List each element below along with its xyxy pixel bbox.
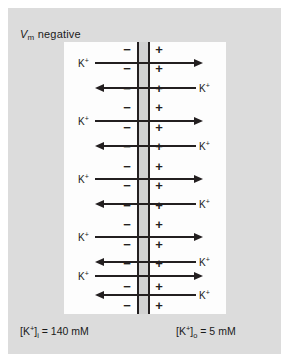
membrane-charge-minus: − <box>123 160 131 173</box>
conc-out-value: = 5 mM <box>197 325 235 337</box>
k-efflux-arrow-2: K+ <box>0 120 289 122</box>
membrane-charge-minus: − <box>123 121 131 134</box>
figure-title: Vm negative <box>20 28 81 42</box>
membrane-charge-plus: + <box>155 199 163 212</box>
potassium-symbol: K <box>199 257 206 268</box>
potassium-ion-label: K+ <box>199 140 210 152</box>
membrane-charge-minus: − <box>123 299 131 312</box>
membrane-charge-plus: + <box>155 238 163 251</box>
k-efflux-arrow-5: K+ <box>0 275 289 277</box>
k-efflux-arrow-3: K+ <box>0 178 289 180</box>
membrane-potential-figure: Vm negative −+−+−+−+−+−+−+−+−+−+−+−+−+−+… <box>0 0 289 362</box>
membrane-charge-plus: + <box>155 280 163 293</box>
title-suffix: negative <box>34 28 80 40</box>
membrane-charge-plus: + <box>155 257 163 270</box>
membrane-charge-plus: + <box>155 160 163 173</box>
potassium-charge-superscript: + <box>85 115 89 122</box>
potassium-charge-superscript: + <box>85 173 89 180</box>
conc-out-bracket-open: [K <box>176 325 186 337</box>
k-efflux-arrow-4: K+ <box>0 236 289 238</box>
potassium-symbol: K <box>199 83 206 94</box>
potassium-ion-label: K+ <box>78 231 89 243</box>
k-influx-arrow-2: K+ <box>0 145 289 147</box>
membrane-charge-minus: − <box>123 218 131 231</box>
potassium-charge-superscript: + <box>85 231 89 238</box>
membrane-charge-plus: + <box>155 218 163 231</box>
potassium-charge-superscript: + <box>85 57 89 64</box>
membrane-charge-minus: − <box>123 280 131 293</box>
membrane-charge-minus: − <box>123 199 131 212</box>
potassium-charge-superscript: + <box>206 256 210 263</box>
potassium-symbol: K <box>78 232 85 243</box>
membrane-charge-plus: + <box>155 299 163 312</box>
potassium-ion-label: K+ <box>78 173 89 185</box>
potassium-symbol: K <box>199 199 206 210</box>
k-influx-arrow-3: K+ <box>0 203 289 205</box>
membrane-charge-minus: − <box>123 43 131 56</box>
potassium-symbol: K <box>78 116 85 127</box>
membrane-charge-plus: + <box>155 43 163 56</box>
potassium-symbol: K <box>78 271 85 282</box>
potassium-symbol: K <box>199 141 206 152</box>
potassium-ion-label: K+ <box>199 198 210 210</box>
potassium-ion-label: K+ <box>199 289 210 301</box>
potassium-charge-superscript: + <box>85 270 89 277</box>
extracellular-concentration-label: [K+]o = 5 mM <box>176 325 236 340</box>
potassium-symbol: K <box>78 58 85 69</box>
potassium-ion-label: K+ <box>78 57 89 69</box>
membrane-charge-plus: + <box>155 179 163 192</box>
k-influx-arrow-5: K+ <box>0 294 289 296</box>
potassium-ion-label: K+ <box>78 115 89 127</box>
potassium-symbol: K <box>199 290 206 301</box>
potassium-charge-superscript: + <box>206 198 210 205</box>
vm-symbol: V <box>20 28 28 40</box>
potassium-charge-superscript: + <box>206 82 210 89</box>
conc-in-bracket-open: [K <box>20 325 30 337</box>
membrane-charge-minus: − <box>123 238 131 251</box>
membrane-charge-plus: + <box>155 121 163 134</box>
k-influx-arrow-4: K+ <box>0 261 289 263</box>
membrane-charge-minus: − <box>123 179 131 192</box>
k-influx-arrow-1: K+ <box>0 87 289 89</box>
potassium-ion-label: K+ <box>199 82 210 94</box>
potassium-charge-superscript: + <box>206 140 210 147</box>
potassium-ion-label: K+ <box>78 270 89 282</box>
conc-in-value: = 140 mM <box>39 325 89 337</box>
potassium-symbol: K <box>78 174 85 185</box>
intracellular-concentration-label: [K+]i = 140 mM <box>20 325 89 340</box>
membrane-charge-minus: − <box>123 257 131 270</box>
potassium-ion-label: K+ <box>199 256 210 268</box>
k-efflux-arrow-1: K+ <box>0 62 289 64</box>
potassium-charge-superscript: + <box>206 289 210 296</box>
membrane-charge-minus: − <box>123 101 131 114</box>
membrane-charge-plus: + <box>155 101 163 114</box>
